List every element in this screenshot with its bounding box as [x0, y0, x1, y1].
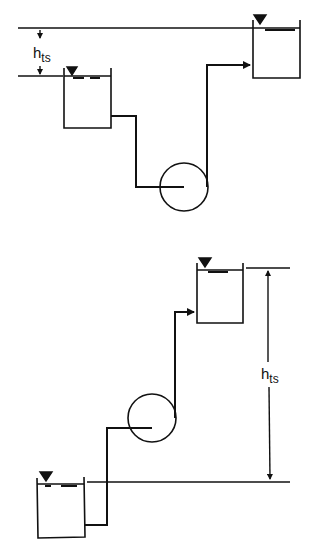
water-level-icon — [67, 67, 77, 75]
water-level-icon — [199, 258, 211, 267]
discharge-pipe — [175, 312, 194, 418]
water-level-icon — [254, 15, 266, 24]
pump-system-diagrams — [0, 0, 318, 559]
hts-dim-down — [269, 387, 270, 479]
hts-label-bottom: hts — [261, 366, 279, 385]
hts-label-top: hts — [33, 45, 51, 64]
suction-pipe — [111, 116, 184, 187]
suction-pipe — [85, 428, 152, 525]
label-sub: ts — [41, 51, 50, 65]
discharge-tank — [253, 20, 300, 78]
discharge-pipe — [207, 65, 250, 187]
bottom-diagram — [37, 258, 290, 538]
water-level-icon — [40, 472, 52, 481]
supply-tank — [64, 68, 111, 128]
pump-icon — [128, 394, 176, 442]
label-sub: ts — [269, 372, 278, 386]
top-diagram — [18, 15, 300, 211]
